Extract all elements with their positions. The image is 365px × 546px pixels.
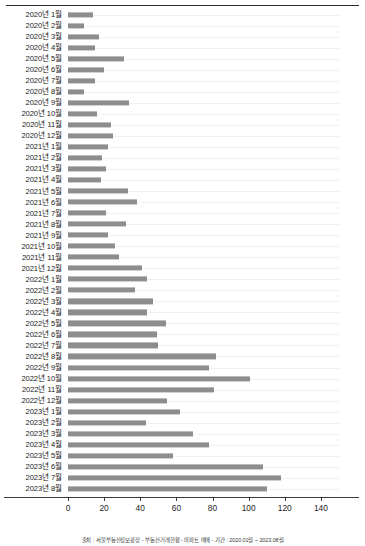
bar-rows-container: 2020년 1월2020년 2월2020년 3월2020년 4월2020년 5월…	[0, 9, 365, 495]
y-axis-label: 2021년 2월	[0, 152, 62, 163]
y-axis-label: 2021년 5월	[0, 186, 62, 197]
gridline	[68, 235, 339, 236]
bar	[68, 420, 146, 425]
bar-row: 2021년 5월	[0, 186, 365, 197]
bar	[68, 431, 193, 436]
bar-row: 2023년 8월	[0, 483, 365, 494]
x-axis-tick-label: 40	[136, 503, 145, 513]
bar	[68, 244, 115, 249]
bar	[68, 100, 129, 105]
bar	[68, 464, 263, 469]
bar-row: 2023년 5월	[0, 450, 365, 461]
bar-row: 2022년 2월	[0, 285, 365, 296]
bar-row: 2022년 10월	[0, 373, 365, 384]
bar-row: 2020년 8월	[0, 86, 365, 97]
bar	[68, 78, 95, 83]
bar	[68, 486, 267, 491]
x-axis-tick-label: 80	[208, 503, 217, 513]
bar	[68, 277, 147, 282]
bar-row: 2020년 10월	[0, 108, 365, 119]
y-axis-label: 2023년 6월	[0, 461, 62, 472]
bar	[68, 475, 281, 480]
y-axis-label: 2020년 8월	[0, 86, 62, 97]
y-axis-label: 2020년 11월	[0, 119, 62, 130]
y-axis-label: 2022년 1월	[0, 274, 62, 285]
bar	[68, 144, 108, 149]
y-axis-label: 2020년 12월	[0, 130, 62, 141]
bar-row: 2022년 5월	[0, 318, 365, 329]
y-axis-label: 2021년 4월	[0, 174, 62, 185]
y-axis-label: 2023년 8월	[0, 483, 62, 494]
bar-row: 2022년 7월	[0, 340, 365, 351]
bar-row: 2022년 8월	[0, 351, 365, 362]
top-divider	[6, 5, 359, 6]
y-axis-label: 2021년 7월	[0, 208, 62, 219]
x-axis-tick	[213, 497, 214, 501]
y-axis-label: 2021년 9월	[0, 230, 62, 241]
bar	[68, 442, 209, 447]
x-axis-tick	[140, 497, 141, 501]
y-axis-label: 2020년 1월	[0, 9, 62, 20]
bar	[68, 111, 97, 116]
bar	[68, 199, 137, 204]
y-axis-label: 2022년 10월	[0, 373, 62, 384]
bar-row: 2023년 6월	[0, 461, 365, 472]
bar-row: 2020년 5월	[0, 53, 365, 64]
y-axis-label: 2021년 6월	[0, 197, 62, 208]
gridline	[68, 15, 339, 16]
bar	[68, 332, 157, 337]
bar-row: 2023년 1월	[0, 406, 365, 417]
chart-page: 2020년 1월2020년 2월2020년 3월2020년 4월2020년 5월…	[0, 0, 365, 546]
bar-chart-plot-area: 2020년 1월2020년 2월2020년 3월2020년 4월2020년 5월…	[0, 9, 365, 506]
x-axis-tick-label: 140	[314, 503, 328, 513]
bar-row: 2021년 8월	[0, 219, 365, 230]
bar-row: 2020년 11월	[0, 119, 365, 130]
y-axis-label: 2020년 10월	[0, 108, 62, 119]
gridline	[68, 169, 339, 170]
bar-row: 2020년 4월	[0, 42, 365, 53]
y-axis-label: 2022년 6월	[0, 329, 62, 340]
bar	[68, 387, 214, 392]
bar	[68, 310, 147, 315]
chart-source-caption: 출처 : 서울부동산정보광장 - 부동산거래현황 - 아파트 매매 - 기간 :…	[0, 536, 365, 544]
bar	[68, 365, 209, 370]
y-axis-label: 2021년 1월	[0, 141, 62, 152]
bar-row: 2021년 1월	[0, 141, 365, 152]
bar-row: 2022년 4월	[0, 307, 365, 318]
bar-row: 2020년 9월	[0, 97, 365, 108]
y-axis-label: 2022년 3월	[0, 296, 62, 307]
gridline	[68, 70, 339, 71]
y-axis-label: 2021년 10월	[0, 241, 62, 252]
bar	[68, 166, 106, 171]
y-axis-label: 2022년 4월	[0, 307, 62, 318]
y-axis-label: 2022년 11월	[0, 384, 62, 395]
y-axis-label: 2023년 1월	[0, 406, 62, 417]
bar	[68, 453, 173, 458]
gridline	[68, 26, 339, 27]
bar-row: 2022년 6월	[0, 329, 365, 340]
bar	[68, 122, 111, 127]
bar	[68, 343, 158, 348]
bar-row: 2021년 9월	[0, 230, 365, 241]
bar-row: 2021년 6월	[0, 197, 365, 208]
bar-row: 2022년 1월	[0, 274, 365, 285]
gridline	[68, 147, 339, 148]
bar	[68, 222, 126, 227]
y-axis-label: 2023년 3월	[0, 428, 62, 439]
bar-row: 2021년 2월	[0, 152, 365, 163]
x-axis-tick	[285, 497, 286, 501]
y-axis-label: 2023년 2월	[0, 417, 62, 428]
y-axis-label: 2020년 4월	[0, 42, 62, 53]
bar	[68, 288, 135, 293]
bar-row: 2022년 3월	[0, 296, 365, 307]
bar-row: 2020년 7월	[0, 75, 365, 86]
bar-row: 2020년 6월	[0, 64, 365, 75]
bar	[68, 133, 113, 138]
y-axis-label: 2020년 7월	[0, 75, 62, 86]
x-axis-tick-label: 100	[242, 503, 256, 513]
y-axis-label: 2022년 2월	[0, 285, 62, 296]
bar	[68, 177, 101, 182]
x-axis-tick	[68, 497, 69, 501]
gridline	[68, 114, 339, 115]
y-axis-label: 2023년 7월	[0, 472, 62, 483]
